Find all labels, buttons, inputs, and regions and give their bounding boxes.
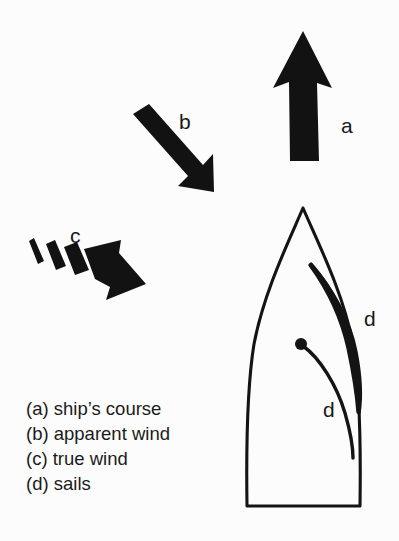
legend-item-a: (a) ship’s course	[26, 396, 241, 421]
arrow-c-head-shape	[84, 240, 146, 300]
arrow-b-label: b	[179, 110, 191, 133]
ship-hull	[247, 208, 360, 506]
arrow-b-apparent-wind	[133, 104, 214, 192]
jib-sail-label: d	[364, 307, 376, 330]
arrow-c-true-wind	[29, 238, 146, 300]
legend-item-d: (d) sails	[26, 471, 241, 496]
arrow-c-tail-segment-1	[29, 238, 44, 264]
arrow-a-shape	[273, 31, 332, 161]
arrow-c-label: c	[70, 224, 81, 247]
mainsail-label: d	[323, 398, 335, 421]
arrow-a-label: a	[341, 114, 353, 137]
legend: (a) ship’s course (b) apparent wind (c) …	[26, 396, 241, 496]
legend-item-c: (c) true wind	[26, 446, 241, 471]
legend-item-b: (b) apparent wind	[26, 421, 241, 446]
arrow-c-tail-segment-2	[46, 240, 66, 270]
arrow-b-shape	[133, 104, 214, 192]
arrow-a-ships-course	[273, 31, 332, 161]
wind-diagram-figure: a b c d	[0, 0, 399, 541]
ship-hull-outline	[247, 208, 360, 506]
